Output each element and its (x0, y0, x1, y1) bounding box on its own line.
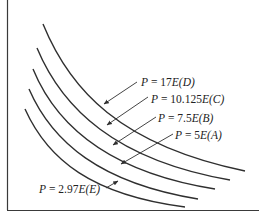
label-e: P = 2.97E(E) (38, 183, 100, 196)
label-a: P = 5E(A) (174, 129, 222, 142)
isoquant-diagram: P = 17E(D) P = 10.125E(C) P = 7.5E(B) P … (0, 0, 259, 217)
label-b: P = 7.5E(B) (157, 112, 214, 125)
arrow-e (106, 181, 118, 188)
arrow-d (104, 82, 137, 104)
label-c: P = 10.125E(C) (150, 93, 224, 106)
arrow-c (107, 97, 148, 125)
label-d: P = 17E(D) (140, 76, 195, 89)
